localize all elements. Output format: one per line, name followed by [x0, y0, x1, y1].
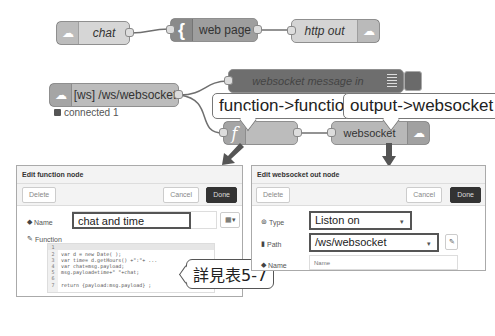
edit-websocket-out-dialog: Edit websocket out node Delete Cancel Do…: [251, 165, 486, 271]
function-label: Function: [35, 236, 62, 243]
done-button[interactable]: Done: [450, 187, 481, 203]
code-line: 6: [48, 275, 61, 281]
status-dot-icon: [54, 109, 61, 116]
delete-button[interactable]: Delete: [256, 187, 290, 203]
node-label: websocket message in: [229, 75, 387, 87]
done-button[interactable]: Done: [206, 187, 237, 203]
debug-list-icon: [387, 74, 397, 88]
debug-toggle-button[interactable]: [404, 71, 422, 91]
type-select[interactable]: Liston on ▾: [309, 211, 412, 230]
http-out-icon: ☁: [357, 20, 379, 42]
wire-chat-webpage: [131, 29, 169, 33]
callout-function: function->function: [212, 93, 361, 119]
output-port[interactable]: [293, 128, 302, 137]
websocket-icon: ☁: [407, 122, 429, 144]
name-row: ◆ Name: [27, 218, 53, 226]
code-line: 1: [48, 244, 61, 250]
name-input[interactable]: [309, 255, 458, 270]
wrench-icon: ✎: [27, 235, 33, 243]
name-input[interactable]: chat and time: [72, 212, 191, 229]
delete-button[interactable]: Delete: [22, 187, 56, 203]
status-text: connected 1: [64, 107, 119, 118]
path-label: Path: [267, 241, 281, 248]
function-label-row: ✎ Function: [27, 235, 62, 243]
callout-text: function->function: [219, 96, 354, 115]
type-label: Type: [269, 219, 284, 226]
dialog-title: Edit function node: [17, 166, 242, 184]
http-in-icon: ☁: [57, 22, 79, 44]
cancel-button[interactable]: Cancel: [163, 187, 199, 203]
chevron-down-icon: ▾: [427, 240, 431, 248]
node-debug[interactable]: websocket message in: [228, 69, 404, 93]
type-value: Liston on: [315, 214, 360, 226]
node-http-out[interactable]: http out ☁: [291, 19, 380, 43]
bookmark-icon: ▮: [261, 240, 265, 248]
websocket-icon: ☁: [50, 84, 72, 106]
arrow-to-websocket-dialog: [382, 143, 396, 167]
tag-icon: ◆: [261, 261, 266, 269]
node-function[interactable]: f: [223, 121, 298, 145]
input-port[interactable]: [219, 128, 228, 137]
type-row: ⊚ Type: [261, 218, 284, 226]
input-port[interactable]: [166, 25, 175, 34]
settings-icon: ⊚: [261, 218, 267, 226]
name-label: Name: [34, 219, 53, 226]
dialog-toolbar: Delete Cancel Done: [252, 184, 485, 206]
output-port[interactable]: [174, 90, 183, 99]
edit-path-button[interactable]: ✎: [445, 234, 458, 250]
path-row: ▮ Path: [261, 240, 281, 248]
node-status: connected 1: [54, 107, 119, 118]
chevron-down-icon: ▾: [400, 218, 404, 226]
cancel-button[interactable]: Cancel: [406, 187, 442, 203]
node-label: [ws] /ws/websocket: [72, 88, 178, 102]
icon-select-button[interactable]: ▦▾: [220, 212, 240, 228]
node-websocket-in[interactable]: ☁ [ws] /ws/websocket: [49, 83, 179, 107]
dialog-title: Edit websocket out node: [252, 166, 485, 184]
path-select[interactable]: /ws/websocket ▾: [309, 233, 439, 252]
callout-text: output->websocket: [350, 96, 493, 115]
input-port[interactable]: [327, 128, 336, 137]
output-port[interactable]: [125, 28, 134, 37]
node-label: http out: [292, 24, 357, 38]
path-value: /ws/websocket: [315, 236, 387, 248]
tag-icon: ◆: [27, 218, 32, 226]
node-chat[interactable]: ☁ chat: [56, 21, 130, 45]
input-port[interactable]: [224, 76, 233, 85]
editor-active-line: [48, 244, 214, 250]
node-websocket-out[interactable]: websocket ☁: [331, 121, 430, 145]
name-row: ◆ Name: [261, 261, 287, 269]
node-web-page[interactable]: { web page: [170, 18, 258, 42]
node-label: websocket: [332, 127, 407, 139]
input-port[interactable]: [287, 26, 296, 35]
dialog-toolbar: Delete Cancel Done: [17, 184, 242, 206]
arrow-to-function-dialog: [222, 143, 244, 167]
node-label: web page: [193, 23, 257, 37]
output-port[interactable]: [253, 25, 262, 34]
node-label: chat: [79, 26, 129, 40]
callout-output: output->websocket: [343, 93, 495, 119]
code-line: 7return {payload:msg.payload} ;: [48, 282, 151, 288]
code-line: 5msg.payload=time+" "+chat;: [48, 269, 139, 275]
name-label: Name: [268, 262, 287, 269]
